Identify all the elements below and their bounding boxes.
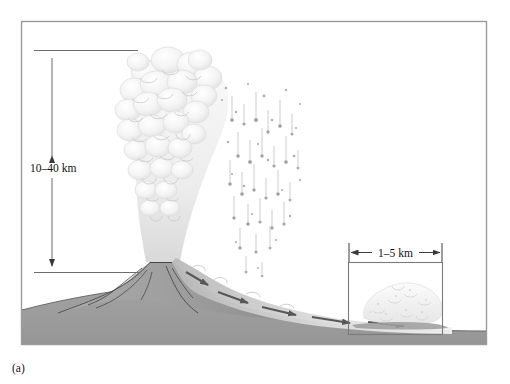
panel-label: (a)	[12, 362, 25, 375]
figure-root: 10–40 km 1–5 km (a)	[0, 0, 510, 384]
volcano-diagram-svg: 10–40 km 1–5 km (a)	[0, 0, 510, 384]
flow-width-label: 1–5 km	[378, 247, 413, 259]
column-height-label: 10–40 km	[30, 162, 76, 174]
